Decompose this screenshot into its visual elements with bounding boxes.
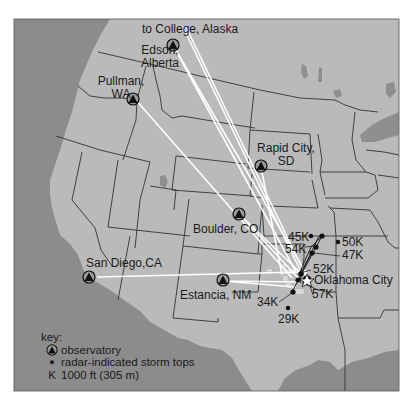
legend-row-storm-tops: ● radar-indicated storm tops [46, 356, 195, 369]
label-pullman: Pullman, WA [96, 75, 146, 101]
legend-k-symbol: K [46, 369, 58, 382]
label-storm-52k: 52K [313, 263, 334, 276]
label-boulder: Boulder, CO [193, 223, 258, 236]
map-legend: key: observatory ● radar-indicated storm… [41, 331, 195, 381]
storm-top-dot-icon: ● [46, 356, 58, 369]
legend-k-meaning: 1000 ft (305 m) [61, 369, 139, 382]
label-estancia: Estancia, NM [180, 289, 251, 302]
label-san-diego: San Diego,CA [86, 257, 162, 270]
label-storm-29k: 29K [278, 313, 299, 326]
label-storm-57k: 57K [312, 288, 333, 301]
label-storm-47k: 47K [342, 249, 363, 262]
label-rapid-city: Rapid City, SD [256, 142, 316, 168]
legend-observatory-label: observatory [61, 344, 121, 357]
label-edson-line2: Alberta [140, 57, 180, 70]
legend-row-observatory: observatory [46, 344, 195, 357]
observatory-boulder-icon [233, 208, 245, 220]
label-rapid-city-line2: SD [256, 155, 316, 168]
label-storm-54k: 54K [285, 243, 306, 256]
observatory-icon [46, 344, 58, 356]
legend-row-k: K 1000 ft (305 m) [46, 369, 195, 382]
legend-title: key: [41, 331, 195, 344]
label-storm-34k: 34K [257, 296, 278, 309]
observatory-san-diego-icon [83, 271, 95, 283]
label-edson: Edson, Alberta [140, 44, 180, 70]
label-pullman-line2: WA [96, 88, 146, 101]
observatory-estancia-icon [217, 274, 229, 286]
label-college-alaska: to College, Alaska [142, 23, 238, 36]
legend-storm-tops-label: radar-indicated storm tops [61, 356, 195, 369]
